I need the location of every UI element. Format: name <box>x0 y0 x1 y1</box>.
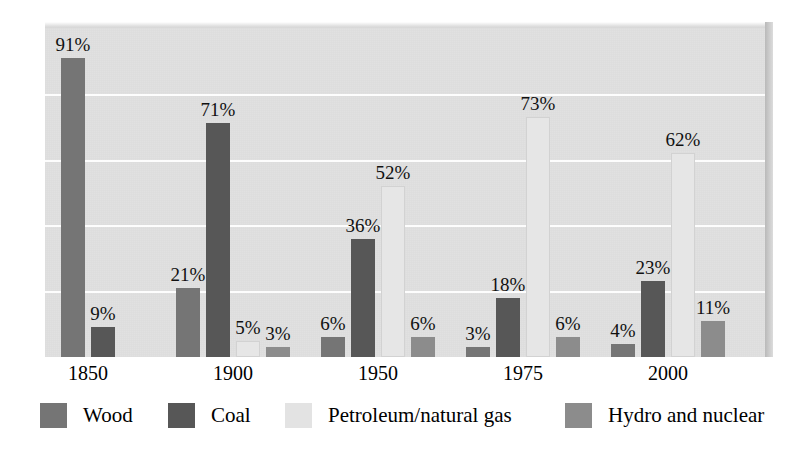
legend-label: Petroleum/natural gas <box>328 404 512 427</box>
legend-item-coal[interactable]: Coal <box>168 398 251 432</box>
bar-value-label: 71% <box>188 100 248 119</box>
legend-swatch-hydro-icon <box>565 403 592 428</box>
bar-value-label: 3% <box>248 324 308 343</box>
legend-swatch-petroleum-icon <box>285 403 312 428</box>
bar-coal-1950 <box>351 239 375 357</box>
plot-area-right-bevel <box>765 22 773 357</box>
x-tick-label-1850: 1850 <box>43 362 133 384</box>
gridline <box>45 94 765 96</box>
bar-value-label: 9% <box>73 304 133 323</box>
bar-value-label: 91% <box>43 35 103 54</box>
bar-wood-2000 <box>611 344 635 357</box>
bar-wood-1975 <box>466 347 490 357</box>
bar-value-label: 62% <box>653 130 713 149</box>
x-tick-label-1900: 1900 <box>188 362 278 384</box>
bar-hydro-1950 <box>411 337 435 357</box>
legend-item-hydro[interactable]: Hydro and nuclear <box>565 398 764 432</box>
chart-legend: WoodCoalPetroleum/natural gasHydro and n… <box>0 398 807 438</box>
legend-item-wood[interactable]: Wood <box>40 398 133 432</box>
bar-hydro-2000 <box>701 321 725 357</box>
legend-label: Coal <box>211 404 251 427</box>
bar-wood-1900 <box>176 288 200 357</box>
legend-label: Hydro and nuclear <box>608 404 764 427</box>
bar-coal-2000 <box>641 281 665 357</box>
x-tick-label-1950: 1950 <box>333 362 423 384</box>
energy-sources-bar-chart: 91%9%21%71%5%3%6%36%52%6%3%18%73%6%4%23%… <box>0 0 807 464</box>
bar-coal-1850 <box>91 327 115 357</box>
x-tick-label-1975: 1975 <box>478 362 568 384</box>
bar-hydro-1900 <box>266 347 290 357</box>
plot-area: 91%9%21%71%5%3%6%36%52%6%3%18%73%6%4%23%… <box>45 28 765 357</box>
legend-swatch-wood-icon <box>40 403 67 428</box>
bar-hydro-1975 <box>556 337 580 357</box>
bar-value-label: 11% <box>683 298 743 317</box>
x-tick-label-2000: 2000 <box>623 362 713 384</box>
bar-wood-1950 <box>321 337 345 357</box>
legend-swatch-coal-icon <box>168 403 195 428</box>
legend-label: Wood <box>83 404 133 427</box>
bar-value-label: 73% <box>508 94 568 113</box>
bar-value-label: 52% <box>363 163 423 182</box>
legend-item-petroleum[interactable]: Petroleum/natural gas <box>285 398 512 432</box>
bar-value-label: 6% <box>393 314 453 333</box>
bar-value-label: 6% <box>538 314 598 333</box>
bar-coal-1975 <box>496 298 520 357</box>
bar-petroleum-2000 <box>671 153 695 357</box>
gridline <box>45 225 765 227</box>
